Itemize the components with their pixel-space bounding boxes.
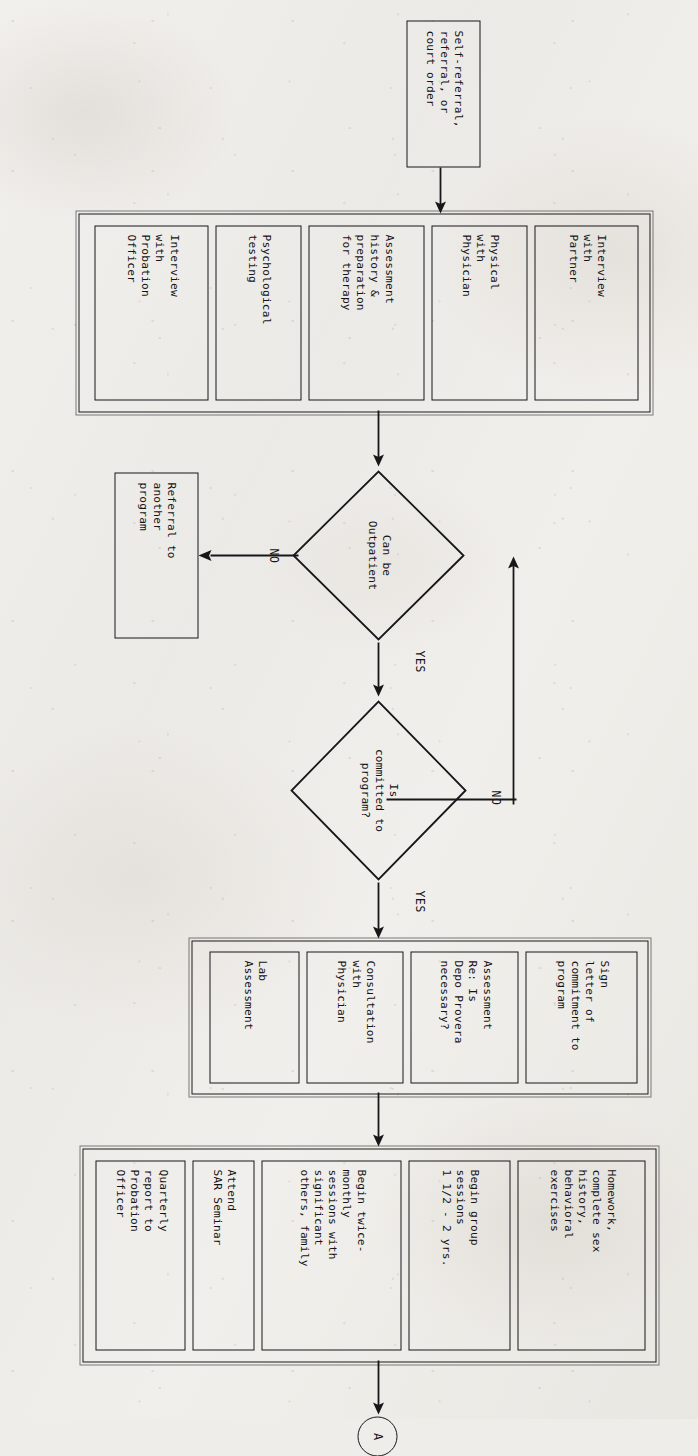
offpage-connector-a-label: A (370, 1432, 384, 1439)
intake-item-interview-partner[interactable]: Interview with Partner (534, 225, 638, 400)
connector-outpatient-yes (368, 642, 388, 698)
treatment-item-twice-monthly-sessions[interactable]: Begin twice- monthly sessions with signi… (261, 1160, 401, 1350)
intake-item-interview-probation[interactable]: Interview with Probation Officer (94, 225, 208, 400)
treatment-item-label-0: Homework, complete sex history, behavior… (545, 1169, 617, 1252)
commitment-item-depo-provera[interactable]: Assessment Re: Is Depo Provera necessary… (410, 951, 518, 1083)
treatment-item-sar-seminar[interactable]: Attend SAR Seminar (192, 1160, 254, 1350)
treatment-item-group-sessions[interactable]: Begin group sessions 1 1/2 - 2 yrs. (408, 1160, 510, 1350)
connector-commitment-to-treatment (368, 1092, 388, 1148)
referral-to-another-program-node[interactable]: Referral to another program (114, 472, 198, 638)
edge-label-committed-yes: YES (412, 890, 426, 912)
edge-label-outpatient-yes: YES (412, 650, 426, 672)
commitment-item-label-1: Assessment Re: Is Depo Provera necessary… (435, 960, 492, 1043)
treatment-item-label-4: Quarterly report to Probation Officer (111, 1169, 168, 1231)
start-node-label: Self-referral, referral, or court order (422, 30, 465, 127)
commitment-item-label-3: Lab Assessment (240, 960, 269, 1029)
intake-item-label-2: Assessment history & preparation for the… (337, 234, 394, 310)
treatment-item-label-3: Attend SAR Seminar (209, 1169, 238, 1245)
start-node-self-referral[interactable]: Self-referral, referral, or court order (406, 20, 480, 167)
commitment-item-label-2: Consultation with Physician (333, 960, 376, 1043)
connector-committed-yes-to-commitment-group (368, 882, 388, 940)
offpage-connector-a[interactable]: A (357, 1416, 397, 1456)
intake-item-label-4: Interview with Probation Officer (122, 234, 179, 296)
connector-committed-no-horizontal (504, 556, 522, 804)
intake-item-label-0: Interview with Partner (565, 234, 608, 296)
intake-item-label-1: Physical with Physician (458, 234, 501, 296)
decision-can-be-outpatient-label: Can be Outpatient (290, 468, 466, 642)
intake-item-psychological-testing[interactable]: Psychological testing (215, 225, 301, 400)
connector-committed-no-to-referral (386, 786, 516, 812)
connector-start-to-intake (430, 167, 450, 215)
commitment-item-lab-assessment[interactable]: Lab Assessment (209, 951, 299, 1083)
commitment-item-consultation-physician[interactable]: Consultation with Physician (306, 951, 403, 1083)
commitment-intake-group: Sign letter of commitment to program Ass… (191, 940, 648, 1094)
intake-item-physical-physician[interactable]: Physical with Physician (431, 225, 527, 400)
treatment-item-homework[interactable]: Homework, complete sex history, behavior… (517, 1160, 645, 1350)
commitment-item-label-0: Sign letter of commitment to program (552, 960, 609, 1050)
decision-can-be-outpatient[interactable]: Can be Outpatient (290, 468, 466, 642)
intake-item-label-3: Psychological testing (244, 234, 273, 324)
intake-item-assessment-history[interactable]: Assessment history & preparation for the… (308, 225, 424, 400)
treatment-item-quarterly-report[interactable]: Quarterly report to Probation Officer (95, 1160, 185, 1350)
treatment-activities-group: Homework, complete sex history, behavior… (82, 1148, 656, 1362)
referral-node-label: Referral to another program (135, 482, 178, 558)
commitment-item-sign-letter[interactable]: Sign letter of commitment to program (525, 951, 637, 1083)
connector-treatment-to-offpage-a (368, 1360, 388, 1416)
intake-assessment-group: Interview with Partner Physical with Phy… (78, 213, 650, 412)
treatment-item-label-1: Begin group sessions 1 1/2 - 2 yrs. (438, 1169, 481, 1266)
treatment-item-label-2: Begin twice- monthly sessions with signi… (295, 1169, 367, 1266)
connector-intake-to-outpatient-decision (368, 410, 388, 468)
connector-outpatient-no-to-referral (196, 545, 298, 575)
